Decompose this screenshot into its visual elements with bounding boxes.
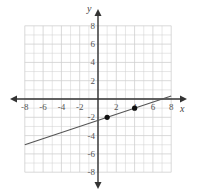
data-point <box>132 106 137 111</box>
coordinate-plane: -8-6-4-224688642-2-4-6-8 x y <box>0 0 198 192</box>
y-tick-label: 6 <box>91 39 96 49</box>
y-axis-up-arrow-icon <box>95 9 102 16</box>
x-tick-label: -6 <box>39 102 47 112</box>
x-tick-label: -4 <box>58 102 66 112</box>
x-tick-label: 2 <box>114 102 119 112</box>
x-axis-right-arrow-icon <box>180 96 187 103</box>
x-axis-left-arrow-icon <box>10 96 17 103</box>
y-axis-down-arrow-icon <box>95 182 102 189</box>
y-tick-label: -8 <box>88 167 96 177</box>
y-tick-label: 4 <box>91 57 96 67</box>
x-tick-label: -2 <box>76 102 84 112</box>
y-tick-label: 2 <box>91 76 96 86</box>
y-tick-label: -6 <box>88 149 96 159</box>
x-tick-label: 6 <box>151 102 156 112</box>
y-tick-label: 8 <box>91 21 96 31</box>
data-point <box>105 115 110 120</box>
x-tick-label: -8 <box>21 102 29 112</box>
y-tick-label: -2 <box>88 112 96 122</box>
x-tick-label: 8 <box>169 102 174 112</box>
y-tick-label: -4 <box>88 131 96 141</box>
x-axis-label: x <box>179 103 185 114</box>
y-axis-label: y <box>86 3 92 14</box>
